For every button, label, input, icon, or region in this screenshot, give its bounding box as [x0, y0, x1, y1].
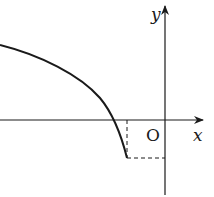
- coordinate-diagram: O x y: [0, 0, 214, 197]
- x-axis-label: x: [193, 125, 203, 145]
- y-axis-label: y: [150, 4, 161, 24]
- origin-label: O: [146, 125, 160, 145]
- function-curve: [0, 45, 127, 158]
